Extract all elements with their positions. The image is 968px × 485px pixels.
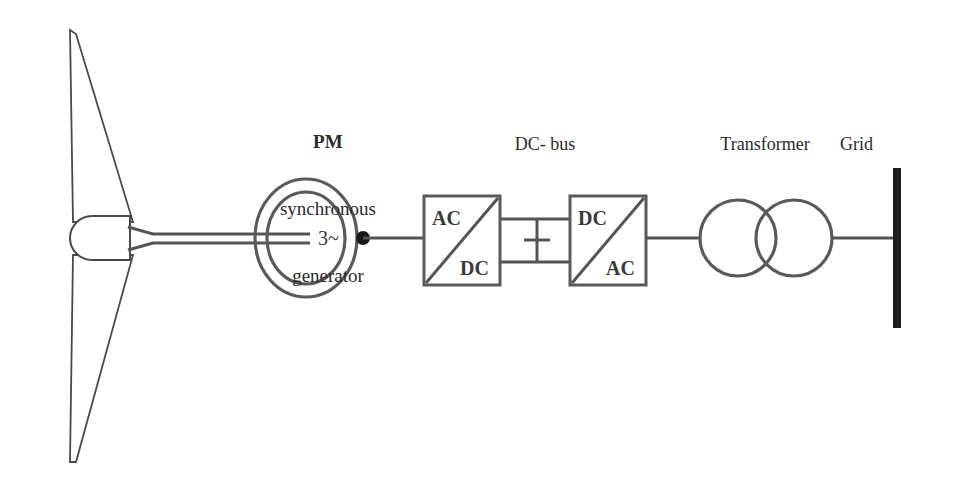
generator-label-line1: PM <box>258 131 398 153</box>
rectifier-input-label: AC <box>432 207 461 229</box>
grid-busbar <box>893 168 901 328</box>
diagram-canvas: 3~ AC DC DC AC <box>0 0 968 485</box>
inverter-input-label: DC <box>578 207 607 229</box>
transformer-label: Transformer <box>690 134 840 155</box>
rotor-blade-upper <box>70 30 133 222</box>
inverter-output-label: AC <box>606 257 635 279</box>
rectifier-output-label: DC <box>460 257 489 279</box>
dc-link <box>500 219 570 262</box>
transformer-secondary-winding <box>756 200 832 276</box>
inverter-block: DC AC <box>570 196 646 285</box>
grid-label: Grid <box>840 134 920 155</box>
nacelle <box>70 216 130 260</box>
dc-bus-label: DC- bus <box>470 134 620 155</box>
power-conversion-diagram: 3~ AC DC DC AC <box>0 0 968 485</box>
rotor-blade-lower <box>70 255 133 462</box>
generator-label-line3: generator <box>258 265 398 287</box>
generator-label: PM synchronous generator <box>258 86 398 332</box>
generator-label-line2: synchronous <box>258 198 398 220</box>
transformer-primary-winding <box>700 200 776 276</box>
rectifier-block: AC DC <box>424 196 500 285</box>
transformer-symbol <box>700 200 832 276</box>
